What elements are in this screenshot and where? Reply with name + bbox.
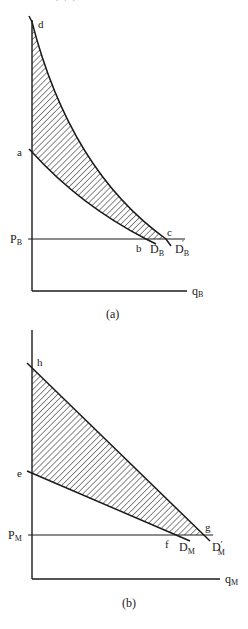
- panel-b-price-label: PM: [8, 528, 22, 543]
- panel-b-demand-upper-label: D′M: [212, 539, 225, 557]
- panel-a-demand-upper-label: DB′: [175, 238, 189, 258]
- demand-shift-diagram: d a b c PB DB DB′ qB (a) h e f: [0, 0, 248, 629]
- panel-a-demand-lower-label: DB: [150, 242, 164, 258]
- panel-a-point-a-label: a: [17, 146, 22, 158]
- panel-a-price-label: PB: [10, 232, 22, 247]
- panel-a: d a b c PB DB DB′ qB (a): [10, 16, 203, 321]
- panel-a-hatched-surplus-area: [32, 22, 166, 239]
- panel-a-point-b-label: b: [136, 242, 142, 254]
- panel-b-point-g-label: g: [205, 521, 211, 533]
- panel-a-point-c-label: c: [167, 226, 172, 238]
- panel-b-caption: (b): [122, 596, 136, 610]
- panel-b-point-e-label: e: [17, 467, 22, 479]
- panel-a-x-axis-label: qB: [192, 284, 203, 299]
- panel-b-x-axis-label: qM: [225, 572, 238, 587]
- panel-a-caption: (a): [106, 307, 119, 321]
- panel-b-demand-lower-label: DM: [179, 540, 195, 556]
- panel-b-point-f-label: f: [165, 538, 169, 550]
- panel-a-point-d-label: d: [38, 18, 44, 30]
- panel-b-point-h-label: h: [37, 356, 43, 368]
- panel-b: h e f g PM DM D′M qM (b): [8, 330, 238, 610]
